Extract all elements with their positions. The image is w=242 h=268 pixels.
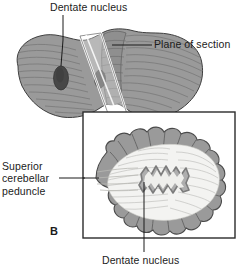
label-panel-letter-b: B [50,225,58,237]
label-superior-line-3: peduncle [2,185,45,197]
label-superior-line-1: Superior [2,160,43,172]
label-dentate-nucleus-top: Dentate nucleus [50,1,127,13]
label-dentate-nucleus-bottom: Dentate nucleus [102,254,179,266]
panel-b-cross-section [59,112,235,252]
label-superior-cerebellar-peduncle: Superiorcerebellarpeduncle [2,160,49,197]
dentate-nucleus-left-highlight [56,68,64,83]
panel-a-cerebellum-superior-view [14,15,203,119]
label-plane-of-section: Plane of section [154,38,230,50]
cerebellum-figure: Dentate nucleus Plane of section Superio… [0,0,242,268]
label-superior-line-2: cerebellar [2,172,49,184]
